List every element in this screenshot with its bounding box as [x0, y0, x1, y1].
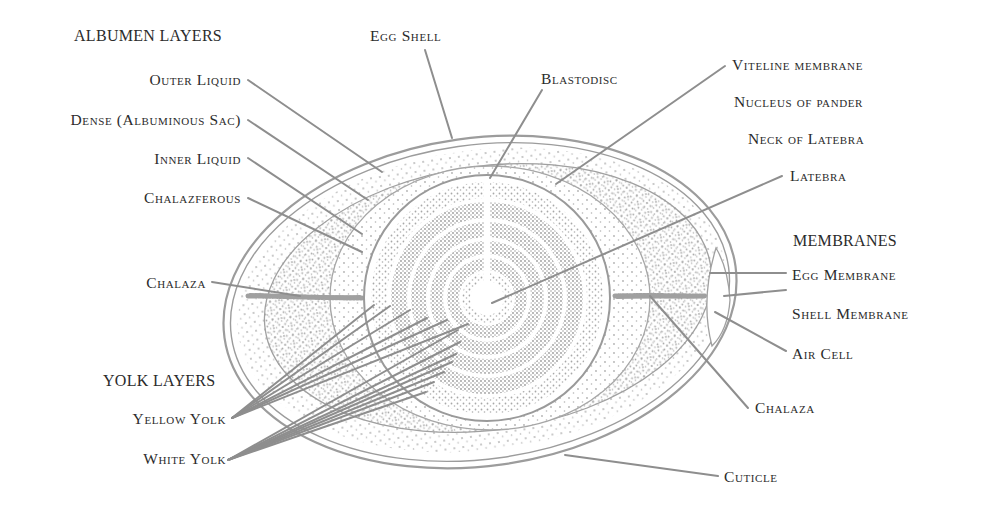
label-neck-of-latebra: Neck of Latebra	[748, 131, 864, 147]
label-chalazferous: Chalazferous	[144, 190, 241, 206]
egg-diagram	[0, 0, 989, 507]
label-dense-albuminous-sac: Dense (Albuminous Sac)	[71, 112, 241, 128]
label-shell-membrane: Shell Membrane	[792, 306, 909, 322]
heading-albumen-layers: ALBUMEN LAYERS	[74, 28, 222, 44]
label-viteline-membrane: Viteline membrane	[732, 57, 863, 73]
label-yellow-yolk: Yellow Yolk	[133, 411, 226, 427]
label-chalaza-right: Chalaza	[755, 400, 815, 416]
label-blastodisc: Blastodisc	[541, 71, 618, 87]
heading-yolk-layers: YOLK LAYERS	[103, 373, 216, 389]
label-egg-membrane: Egg Membrane	[792, 267, 896, 283]
label-air-cell: Air Cell	[792, 346, 853, 362]
label-egg-shell: Egg Shell	[370, 28, 441, 44]
label-latebra: Latebra	[790, 168, 846, 184]
label-nucleus-of-pander: Nucleus of pander	[734, 94, 863, 110]
latebra-core	[470, 281, 504, 315]
heading-membranes: MEMBRANES	[793, 233, 897, 249]
label-white-yolk: White Yolk	[143, 451, 226, 467]
label-outer-liquid: Outer Liquid	[149, 72, 241, 88]
label-cuticle: Cuticle	[724, 469, 778, 485]
neck-of-latebra	[484, 178, 490, 283]
label-chalaza-left: Chalaza	[146, 275, 206, 291]
label-inner-liquid: Inner Liquid	[154, 151, 241, 167]
